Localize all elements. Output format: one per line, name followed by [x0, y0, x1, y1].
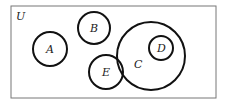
set-e: E: [89, 55, 123, 89]
set-b-label: B: [89, 22, 98, 35]
venn-diagram: U A B C E D: [0, 0, 226, 103]
set-d: D: [149, 36, 173, 60]
set-c-label: C: [134, 58, 143, 71]
set-a-label: A: [45, 43, 54, 56]
set-d-label: D: [156, 42, 166, 55]
set-e-label: E: [101, 66, 110, 79]
set-b: B: [78, 12, 110, 44]
universe-label: U: [16, 10, 26, 23]
set-a: A: [33, 32, 67, 66]
